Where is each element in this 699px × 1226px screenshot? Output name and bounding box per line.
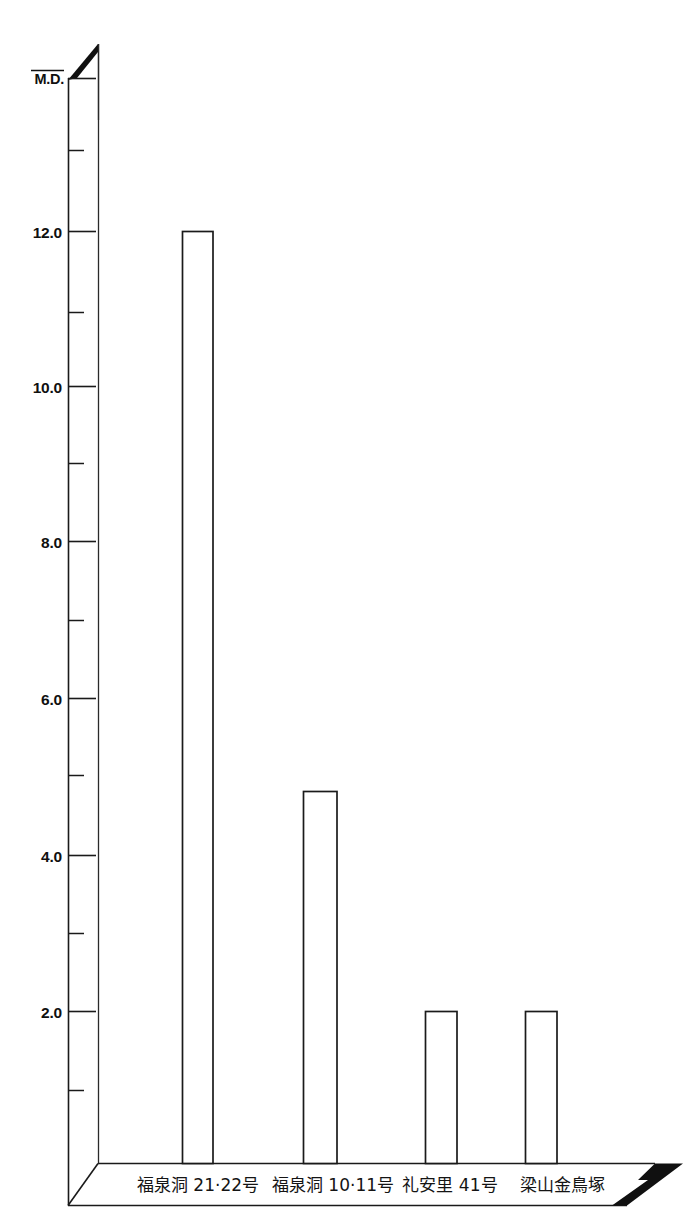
- y-axis-tick-labels: 12.0 10.0 8.0 6.0 4.0 2.0: [33, 224, 62, 1021]
- y-axis-ticks: [68, 79, 96, 1091]
- bar-series: [183, 232, 558, 1164]
- bar-3[interactable]: [526, 1012, 558, 1164]
- y-tick-label-2: 2.0: [41, 1004, 62, 1021]
- y-tick-label-6: 6.0: [41, 691, 62, 708]
- x-axis-category-labels: 福泉洞 21·22号 福泉洞 10·11号 礼安里 41号 梁山金鳥塚: [137, 1175, 605, 1195]
- y-tick-label-8: 8.0: [41, 534, 62, 551]
- x-axis-arrow-icon: [612, 1164, 683, 1206]
- y-axis-unit-label: M.D.: [35, 71, 65, 87]
- x-tick-label-1: 福泉洞 10·11号: [272, 1175, 394, 1195]
- bar-2[interactable]: [426, 1012, 458, 1164]
- x-tick-label-2: 礼安里 41号: [402, 1175, 497, 1195]
- y-tick-label-12: 12.0: [33, 224, 62, 241]
- y-axis-arrow-icon: [68, 44, 98, 80]
- y-axis: [68, 44, 99, 1206]
- y-tick-label-4: 4.0: [41, 848, 62, 865]
- x-tick-label-0: 福泉洞 21·22号: [137, 1175, 259, 1195]
- chart-canvas: M.D. 12.0 10.0 8.0 6.0 4.0 2.0 福泉洞 21·22…: [0, 0, 699, 1226]
- bar-chart: M.D. 12.0 10.0 8.0 6.0 4.0 2.0 福泉洞 21·22…: [0, 0, 699, 1226]
- bar-1[interactable]: [304, 792, 338, 1164]
- y-tick-label-10: 10.0: [33, 379, 62, 396]
- y-axis-unit-label-group: M.D.: [31, 71, 64, 88]
- baseline-left-slant: [68, 1164, 98, 1206]
- bar-0[interactable]: [183, 232, 214, 1164]
- x-tick-label-3: 梁山金鳥塚: [520, 1175, 605, 1195]
